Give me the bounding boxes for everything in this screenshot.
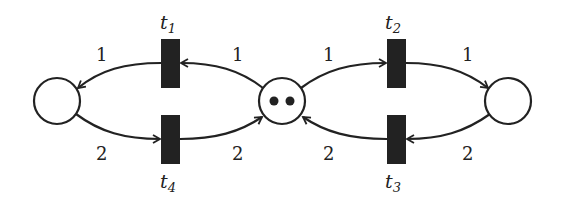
weight-pright-t3: 2 xyxy=(462,143,473,164)
petri-net-diagram: t1 t2 t3 t4 1 1 2 2 1 1 2 2 xyxy=(0,0,565,202)
label-t1: t1 xyxy=(160,11,176,36)
label-t4: t4 xyxy=(160,170,176,195)
arc-t1-pleft xyxy=(78,63,161,88)
arc-t3-pmiddle xyxy=(303,117,387,139)
arc-t2-pright xyxy=(406,63,488,88)
arc-pmiddle-t1 xyxy=(181,63,263,88)
weight-t2-pright: 1 xyxy=(462,44,473,65)
transition-t1 xyxy=(161,39,180,88)
transition-t4 xyxy=(161,115,180,164)
weight-t1-pleft: 1 xyxy=(96,44,107,65)
weight-pleft-t4: 2 xyxy=(96,143,107,164)
label-t2: t2 xyxy=(385,11,401,36)
arc-pright-t3 xyxy=(407,114,490,139)
weight-pmiddle-t2: 1 xyxy=(323,44,334,65)
place-left xyxy=(34,78,80,124)
place-middle xyxy=(259,78,305,124)
token xyxy=(286,97,295,106)
arc-pleft-t4 xyxy=(76,114,160,139)
weight-t4-pmiddle: 2 xyxy=(232,143,243,164)
token xyxy=(270,97,279,106)
place-right xyxy=(485,78,531,124)
weight-pmiddle-t1: 1 xyxy=(232,44,243,65)
label-t3: t3 xyxy=(385,170,401,195)
arc-pmiddle-t2 xyxy=(301,63,386,88)
transition-t2 xyxy=(387,39,406,88)
weight-t3-pmiddle: 2 xyxy=(323,143,334,164)
arc-t4-pmiddle xyxy=(180,117,262,139)
transition-t3 xyxy=(387,115,406,164)
